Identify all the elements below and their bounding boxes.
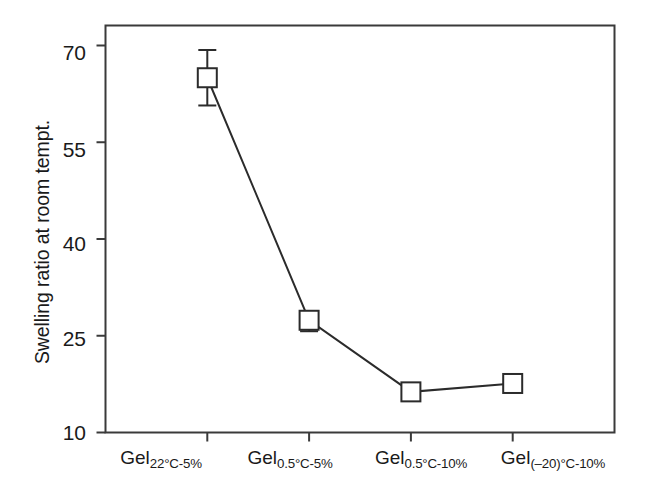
chart-figure: Swelling ratio at room tempt. 70 55 40 2… [0, 0, 670, 495]
x-tick-label-1: Gel0.5°C-5% [247, 448, 332, 467]
x-tick-label-0-sub: 22°C-5% [150, 456, 202, 471]
x-tick-label-0: Gel22°C-5% [120, 448, 202, 467]
axes-frame [106, 26, 615, 433]
x-tick-label-1-base: Gel [247, 447, 277, 468]
x-tick-label-2: Gel0.5°C-10% [375, 448, 467, 467]
data-point-3 [503, 374, 522, 393]
x-tick-label-3: Gel(–20)°C-10% [501, 448, 605, 467]
x-tick-marks [207, 433, 512, 442]
x-tick-label-2-sub: 0.5°C-10% [404, 456, 467, 471]
data-point-0 [198, 68, 217, 87]
x-tick-label-1-sub: 0.5°C-5% [277, 456, 332, 471]
x-tick-label-3-base: Gel [501, 447, 531, 468]
x-tick-label-3-sub: (–20)°C-10% [530, 456, 605, 471]
plot-area [0, 0, 670, 495]
x-tick-label-0-base: Gel [120, 447, 150, 468]
data-point-2 [401, 382, 420, 401]
y-tick-marks [97, 45, 106, 432]
x-tick-label-2-base: Gel [375, 447, 405, 468]
data-point-1 [300, 311, 319, 330]
